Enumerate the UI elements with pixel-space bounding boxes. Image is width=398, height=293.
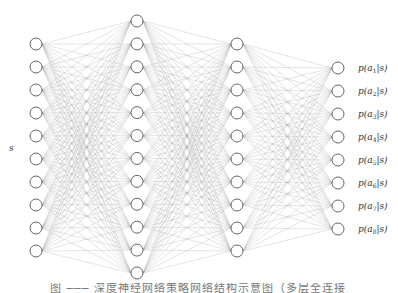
- output-probability-label: p(a4|s): [358, 132, 388, 143]
- input-layer-node: [30, 61, 42, 73]
- hidden-layer-1-node: [131, 107, 143, 119]
- hidden-layer-1-node: [131, 84, 143, 96]
- output-layer-node: [332, 131, 344, 143]
- input-layer-node: [30, 38, 42, 50]
- edge: [42, 204, 131, 251]
- edge: [243, 160, 332, 251]
- input-layer-node: [30, 245, 42, 257]
- edge: [243, 68, 332, 113]
- output-layer-node: [332, 62, 344, 74]
- edge: [42, 251, 131, 273]
- output-probability-label: p(a7|s): [358, 201, 388, 212]
- hidden-layer-2-node: [231, 38, 243, 50]
- output-probability-label: p(a3|s): [358, 109, 388, 120]
- input-layer-node: [30, 199, 42, 211]
- edge: [243, 91, 332, 251]
- edge: [143, 67, 231, 273]
- edge: [243, 114, 332, 251]
- edge: [143, 182, 231, 273]
- hidden-layer-1-node: [131, 267, 143, 279]
- input-layer-node: [30, 84, 42, 96]
- hidden-layer-2-node: [231, 245, 243, 257]
- output-layer-node: [332, 108, 344, 120]
- hidden-layer-1-node: [131, 38, 143, 50]
- hidden-layer-2-node: [231, 130, 243, 142]
- hidden-layer-2-node: [231, 222, 243, 234]
- output-probability-label: p(a5|s): [358, 155, 388, 166]
- output-layer-node: [332, 177, 344, 189]
- input-layer-node: [30, 153, 42, 165]
- connection-edges: [42, 21, 332, 273]
- output-probability-label: p(a1|s): [358, 63, 388, 74]
- output-layer-node: [332, 85, 344, 97]
- hidden-layer-1-node: [131, 130, 143, 142]
- output-layer-node: [332, 154, 344, 166]
- edge: [243, 68, 332, 90]
- edge: [42, 21, 131, 44]
- edge: [243, 68, 332, 205]
- edge: [243, 67, 332, 68]
- edge: [143, 159, 231, 273]
- edge: [243, 183, 332, 251]
- output-probability-label: p(a8|s): [358, 224, 388, 235]
- edge: [143, 21, 231, 44]
- hidden-layer-1-node: [131, 61, 143, 73]
- edge: [42, 250, 131, 251]
- edge: [243, 137, 332, 251]
- input-layer-node: [30, 176, 42, 188]
- output-layer-node: [332, 223, 344, 235]
- hidden-layer-2-node: [231, 176, 243, 188]
- output-probability-label: p(a6|s): [358, 178, 388, 189]
- edge: [243, 68, 332, 159]
- hidden-layer-2-node: [231, 84, 243, 96]
- hidden-layer-2-node: [231, 61, 243, 73]
- hidden-layer-2-node: [231, 107, 243, 119]
- edge: [243, 206, 332, 251]
- edge: [143, 113, 231, 273]
- figure-caption: 图 ─── 深度神经网络策略网络结构示意图（多层全连接）: [50, 283, 346, 293]
- edge: [42, 21, 131, 228]
- input-layer-node: [30, 222, 42, 234]
- output-labels: p(a1|s)p(a2|s)p(a3|s)p(a4|s)p(a5|s)p(a6|…: [358, 63, 388, 235]
- hidden-layer-1-node: [131, 15, 143, 27]
- input-layer-node: [30, 130, 42, 142]
- hidden-layer-1-node: [131, 152, 143, 164]
- output-layer-node: [332, 200, 344, 212]
- hidden-layer-1-node: [131, 175, 143, 187]
- edge: [243, 229, 332, 251]
- hidden-layer-1-node: [131, 244, 143, 256]
- edge: [243, 68, 332, 228]
- edge: [243, 44, 332, 68]
- hidden-layer-1-node: [131, 198, 143, 210]
- edge: [243, 68, 332, 182]
- edge: [243, 68, 332, 251]
- edge: [243, 68, 332, 136]
- edge: [42, 21, 131, 182]
- hidden-layer-2-node: [231, 199, 243, 211]
- input-state-label: s: [9, 143, 14, 153]
- output-probability-label: p(a2|s): [358, 86, 388, 97]
- hidden-layer-2-node: [231, 153, 243, 165]
- input-layer-node: [30, 107, 42, 119]
- hidden-layer-1-node: [131, 221, 143, 233]
- edge: [143, 251, 231, 273]
- edge: [143, 228, 231, 273]
